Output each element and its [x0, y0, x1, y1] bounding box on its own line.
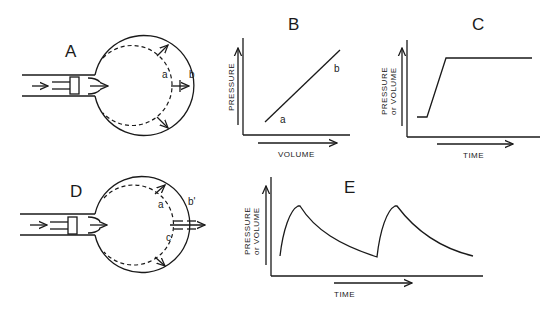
panel-c-label: C	[472, 15, 484, 34]
d-point-a: a	[158, 199, 164, 210]
figure-canvas: A a b B PRESSURE VOLUME a b	[0, 0, 558, 310]
c-y-label-2: or VOLUME	[389, 67, 398, 115]
inflow-curve-bottom	[88, 90, 100, 94]
panel-d: D a b' c	[20, 177, 205, 273]
d-point-c: c	[166, 232, 171, 243]
b-point-a: a	[280, 114, 286, 125]
inflow-curve-bottom-d	[88, 229, 100, 233]
panel-e-label: E	[344, 178, 355, 197]
inflow-curve-top-d	[88, 217, 100, 221]
e-pulse-curve	[280, 206, 473, 257]
expand-arrow-down-icon	[157, 117, 168, 128]
b-point-b: b	[334, 63, 340, 74]
expand-arrow-down-d-icon	[155, 257, 165, 266]
sphere-inner-dashed	[103, 46, 172, 126]
c-y-label-1: PRESSURE	[380, 67, 389, 115]
expand-arrow-up-icon	[157, 45, 168, 56]
panel-a-label: A	[65, 42, 77, 61]
c-x-label: TIME	[463, 151, 484, 160]
b-x-label: VOLUME	[278, 150, 315, 159]
c-step-curve	[417, 58, 532, 117]
inflow-curve-top	[88, 78, 100, 82]
point-b-label: b	[189, 69, 195, 80]
piston-head	[70, 77, 79, 94]
panel-e: E PRESSURE or VOLUME TIME	[243, 177, 483, 299]
e-y-label-2: or VOLUME	[252, 207, 261, 255]
b-y-label: PRESSURE	[227, 63, 236, 111]
point-a-label: a	[162, 69, 168, 80]
panel-a: A a b	[22, 36, 195, 136]
panel-b-label: B	[288, 15, 299, 34]
d-point-b: b'	[188, 196, 196, 207]
e-y-label-1: PRESSURE	[243, 207, 252, 255]
piston-head-d	[68, 217, 77, 234]
panel-d-label: D	[70, 182, 82, 201]
sphere-inner-dashed-d	[104, 185, 174, 265]
panel-b: B PRESSURE VOLUME a b	[227, 15, 350, 159]
expand-arrow-up-d-icon	[155, 185, 165, 194]
panel-c: C PRESSURE or VOLUME TIME	[380, 15, 540, 160]
pv-line	[265, 50, 340, 122]
e-x-label: TIME	[334, 290, 355, 299]
